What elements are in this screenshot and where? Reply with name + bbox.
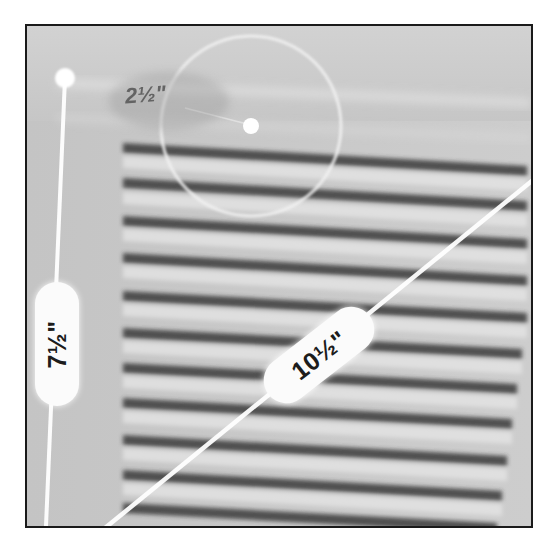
radius-label: 2½" — [124, 81, 167, 110]
center-point-icon — [243, 118, 259, 134]
corner-point-icon — [55, 68, 75, 88]
height-label: 7½" — [43, 320, 72, 368]
vent-photo-frame: 2½" 7½" 10½" — [25, 24, 533, 528]
vent-illustration — [27, 26, 531, 526]
height-label-pill: 7½" — [35, 282, 79, 406]
